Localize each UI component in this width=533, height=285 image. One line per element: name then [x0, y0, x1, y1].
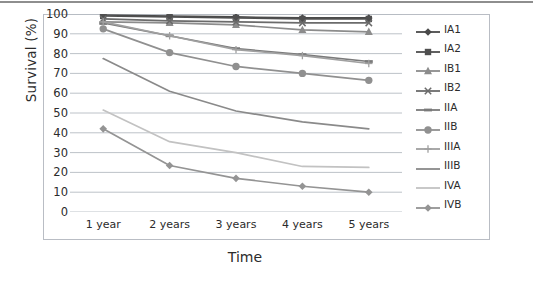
legend-label: IVA [444, 180, 461, 191]
data-point-marker [232, 175, 240, 183]
data-point-marker [424, 204, 432, 212]
legend-item-IIA[interactable]: IIA [415, 100, 457, 114]
legend-item-IIB[interactable]: IIB [415, 120, 457, 134]
legend-item-IVB[interactable]: IVB [415, 198, 461, 212]
legend-label: IA1 [444, 24, 461, 35]
chart-figure: Survival (%) 0102030405060708090100 1 ye… [0, 0, 533, 285]
legend-item-IB2[interactable]: IB2 [415, 81, 461, 95]
y-axis-tick-labels: 0102030405060708090100 [14, 14, 68, 212]
data-point-marker [166, 49, 173, 56]
data-point-marker [232, 46, 239, 53]
legend-item-IA1[interactable]: IA1 [415, 22, 461, 36]
data-point-marker [424, 109, 432, 112]
legend-item-IIIB[interactable]: IIIB [415, 159, 461, 173]
series-line [103, 129, 369, 192]
y-tick-label: 20 [28, 165, 68, 179]
legend-key-x-icon [415, 82, 441, 94]
legend-key-triangle-icon [415, 62, 441, 74]
data-point-marker [100, 25, 107, 32]
legend-key-dash-icon [415, 101, 441, 113]
top-divider-rule [0, 1, 533, 3]
data-point-marker [424, 28, 432, 36]
y-tick-label: 70 [28, 66, 68, 80]
y-tick-label: 60 [28, 86, 68, 100]
legend-item-IIIA[interactable]: IIIA [415, 139, 460, 153]
legend-label: IVB [444, 199, 461, 210]
plot-svg [70, 14, 402, 212]
legend-key-circle-icon [415, 121, 441, 133]
legend-item-IVA[interactable]: IVA [415, 178, 461, 192]
legend-label: IIA [444, 102, 457, 113]
series-IVB [99, 125, 372, 196]
chart-legend: IA1IA2IB1IB2IIAIIBIIIAIIIBIVAIVB [415, 22, 490, 222]
y-tick-label: 90 [28, 27, 68, 41]
legend-item-IA2[interactable]: IA2 [415, 42, 461, 56]
y-tick-label: 30 [28, 146, 68, 160]
data-point-marker [166, 32, 173, 39]
data-point-marker [299, 182, 307, 190]
data-point-marker [166, 162, 174, 170]
plot-area [70, 14, 402, 212]
legend-key-none-icon [415, 179, 441, 191]
data-point-marker [232, 63, 239, 70]
legend-item-IB1[interactable]: IB1 [415, 61, 461, 75]
x-axis-tick-labels: 1 year2 years3 years4 years5 years [70, 218, 402, 238]
y-tick-label: 10 [28, 185, 68, 199]
legend-label: IA2 [444, 43, 461, 54]
legend-key-diamond-icon [415, 199, 441, 211]
legend-key-plus-icon [415, 140, 441, 152]
legend-key-square-icon [415, 43, 441, 55]
legend-label: IB1 [444, 63, 461, 74]
y-tick-label: 0 [28, 205, 68, 219]
data-point-marker [299, 52, 306, 59]
y-tick-label: 80 [28, 47, 68, 61]
data-point-marker [424, 145, 431, 152]
x-axis-title: Time [0, 249, 490, 265]
y-tick-label: 100 [28, 7, 68, 21]
data-point-marker [424, 126, 431, 133]
series-line [103, 110, 369, 167]
gridlines [70, 14, 402, 212]
data-point-marker [365, 77, 372, 84]
y-tick-label: 50 [28, 106, 68, 120]
legend-label: IIIA [444, 141, 460, 152]
legend-key-diamond-icon [415, 23, 441, 35]
legend-key-none-icon [415, 160, 441, 172]
data-point-marker [99, 125, 107, 133]
y-tick-label: 40 [28, 126, 68, 140]
legend-label: IIB [444, 121, 457, 132]
x-tick-label: 5 years [329, 218, 409, 231]
series-line [103, 29, 369, 80]
legend-label: IIIB [444, 160, 461, 171]
data-point-marker [425, 48, 431, 54]
legend-label: IB2 [444, 82, 461, 93]
series-IVA [103, 110, 369, 167]
data-point-marker [299, 70, 306, 77]
data-point-marker [365, 188, 373, 196]
